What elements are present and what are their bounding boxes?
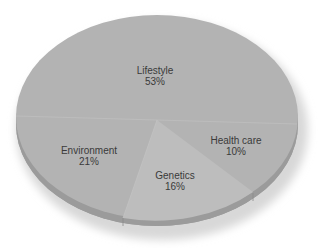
- label-health-care: Health care 10%: [200, 135, 272, 157]
- label-environment-name: Environment: [52, 145, 126, 156]
- pie-chart: [0, 0, 319, 248]
- label-health-care-name: Health care: [200, 135, 272, 146]
- label-genetics-name: Genetics: [145, 170, 205, 181]
- label-lifestyle: Lifestyle 53%: [120, 65, 190, 87]
- label-lifestyle-pct: 53%: [120, 76, 190, 87]
- label-environment: Environment 21%: [52, 145, 126, 167]
- label-genetics-pct: 16%: [145, 181, 205, 192]
- label-environment-pct: 21%: [52, 156, 126, 167]
- label-health-care-pct: 10%: [200, 146, 272, 157]
- label-lifestyle-name: Lifestyle: [120, 65, 190, 76]
- label-genetics: Genetics 16%: [145, 170, 205, 192]
